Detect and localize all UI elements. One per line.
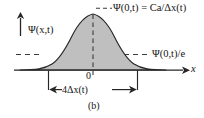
- efold-amplitude-label: Ψ(0,t)/e: [152, 49, 185, 60]
- peak-amplitude-label: Ψ(0,t) = Ca/Δx(t): [113, 3, 186, 14]
- figure-caption: (b): [88, 101, 100, 111]
- origin-label: 0: [86, 71, 91, 81]
- gaussian-wave-packet-figure: Ψ(0,t) = Ca/Δx(t) Ψ(0,t)/e Ψ(x,t) x 0 4Δ…: [0, 0, 204, 118]
- width-span-label: 4Δx(t): [62, 85, 88, 95]
- y-axis-label: Ψ(x,t): [28, 25, 54, 36]
- x-axis-arrowhead: [182, 66, 190, 74]
- x-axis-label: x: [191, 64, 196, 75]
- y-axis-arrowhead: [17, 12, 24, 19]
